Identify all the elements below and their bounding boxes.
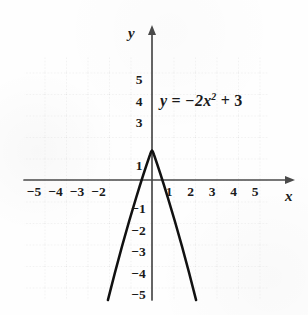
equation-equals: = [172,92,181,109]
x-tick-label-neg3: −3 [67,185,88,199]
x-axis-label: x [285,189,293,204]
x-tick-label-3: 3 [206,185,218,199]
equation-annotation: y = −2x2 + 3 [160,93,242,109]
y-tick-label-neg4: −4 [128,267,149,281]
plot-canvas [0,0,308,315]
x-tick-label-1: 1 [163,185,175,199]
y-axis-label: y [128,26,135,41]
y-tick-label-1: 1 [133,159,145,173]
equation-lhs: y [160,92,167,109]
equation-constant: 3 [234,92,242,109]
y-tick-label-4: 4 [133,95,145,109]
y-tick-label-neg1: −1 [128,202,149,216]
x-tick-label-neg2: −2 [88,185,109,199]
x-tick-label-2: 2 [185,185,197,199]
y-tick-label-neg2: −2 [128,224,149,238]
x-tick-label-neg4: −4 [45,185,66,199]
parabola-figure: −5 −4 −3 −2 1 2 3 4 5 5 4 3 1 −1 −2 −3 −… [0,0,308,315]
equation-exponent: 2 [211,91,216,102]
y-tick-label-neg5: −5 [128,288,149,302]
x-tick-label-5: 5 [249,185,261,199]
equation-coefficient: −2x [185,92,211,109]
y-tick-label-3: 3 [133,116,145,130]
equation-plus: + [221,92,230,109]
x-tick-label-neg5: −5 [24,185,45,199]
y-tick-label-5: 5 [133,73,145,87]
y-tick-label-neg3: −3 [128,245,149,259]
x-tick-label-4: 4 [228,185,240,199]
